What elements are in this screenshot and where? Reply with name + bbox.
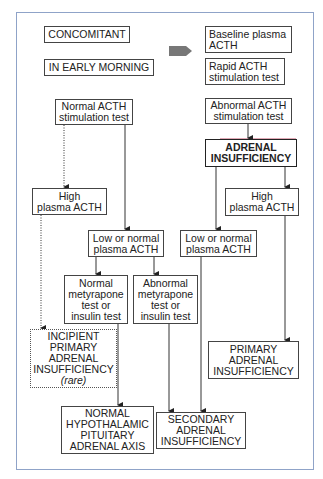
normal-acth-stim-box: Normal ACTH stimulation test [55,99,133,125]
node-text: Low or normal [93,233,160,244]
node-text: test or [151,300,180,311]
normal-hpa-axis-box: NORMAL HYPOTHALAMIC PITUITARY ADRENAL AX… [61,406,154,454]
node-text: High [59,191,81,202]
early-morning-label: IN EARLY MORNING [44,59,154,76]
node-text: Normal [79,278,113,289]
rapid-acth-test-box: Rapid ACTH stimulation test [205,58,285,85]
adrenal-insufficiency-box: ADRENAL INSUFFICIENCY [205,139,297,167]
node-text: metyrapone [138,289,193,300]
node-text: PRIMARY [230,344,278,355]
header-arrow-icon [169,46,192,56]
node-text: stimulation test [59,112,129,123]
secondary-ai-box: SECONDARY ADRENAL INSUFFICIENCY [156,412,246,449]
node-text: Abnormal [143,278,188,289]
node-text: stimulation test [213,111,283,122]
node-text: insulin test [141,311,191,322]
rapid-line-2: stimulation test [209,72,279,83]
node-text: ADRENAL AXIS [70,441,145,452]
node-text: INSUFFICIENCY [211,153,292,164]
node-text: plasma ACTH [37,202,102,213]
abnormal-acth-stim-box: Abnormal ACTH stimulation test [205,98,292,124]
baseline-plasma-acth-box: Baseline plasma ACTH [205,26,292,53]
rapid-line-1: Rapid ACTH [209,61,267,72]
low-normal-acth-left-box: Low or normal plasma ACTH [88,230,164,257]
high-plasma-acth-left-box: High plasma ACTH [32,188,107,215]
node-text: test or [81,300,110,311]
baseline-line-2: ACTH [209,40,238,51]
normal-metyrapone-box: Normal metyrapone test or insulin test [64,275,128,324]
early-morning-text: IN EARLY MORNING [49,62,150,73]
node-text: metyrapone [68,289,123,300]
high-plasma-acth-right-box: High plasma ACTH [225,188,299,216]
node-text: plasma ACTH [230,202,295,213]
node-text: plasma ACTH [94,244,159,255]
node-text: Low or normal [185,233,252,244]
concomitant-label: CONCOMITANT [44,26,130,43]
node-text: plasma ACTH [186,244,251,255]
node-text: INSUFFICIENCY [161,436,242,447]
node-text: ADRENAL [229,355,279,366]
node-text: insulin test [71,311,121,322]
primary-ai-box: PRIMARY ADRENAL INSUFFICIENCY [208,341,299,379]
abnormal-metyrapone-box: Abnormal metyrapone test or insulin test [133,275,198,324]
concomitant-text: CONCOMITANT [48,29,125,40]
node-text: INSUFFICIENCY [213,366,294,377]
low-normal-acth-right-box: Low or normal plasma ACTH [180,230,257,257]
incipient-primary-ai-box: INCIPIENT PRIMARY ADRENAL INSUFFICIENCY … [30,329,117,388]
rare-note: (rare) [61,375,87,386]
baseline-line-1: Baseline plasma [209,29,286,40]
